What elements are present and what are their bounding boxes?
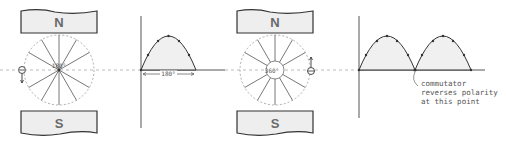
left-panel: N 180°	[0, 10, 141, 136]
magnet-north-label: N	[270, 15, 279, 30]
annotation-line-1: commutator	[421, 79, 467, 88]
magnet-south-right: S	[237, 111, 313, 135]
rotor-angle-label-right: 360°	[265, 67, 279, 74]
magnet-north-right: N	[237, 10, 313, 33]
magnet-north-label: N	[54, 15, 63, 30]
magnet-north-left: N	[21, 10, 97, 33]
rotor-angle-label-left: 180°	[52, 62, 66, 69]
annotation-line-2: reverses polarity	[421, 88, 498, 97]
magnet-south-label: S	[55, 116, 64, 131]
magnet-south-label: S	[271, 116, 280, 131]
annotation-line-3: at this point	[421, 97, 480, 106]
graph-right: commutator reverses polarity at this poi…	[358, 16, 498, 118]
generator-diagram: N 180°	[0, 0, 506, 144]
commutator-annotation: commutator reverses polarity at this poi…	[421, 79, 498, 106]
right-panel: N 360°	[225, 10, 359, 136]
graph-left: 180°	[140, 16, 225, 128]
magnet-south-left: S	[21, 111, 97, 135]
dimension-label: 180°	[161, 70, 175, 77]
